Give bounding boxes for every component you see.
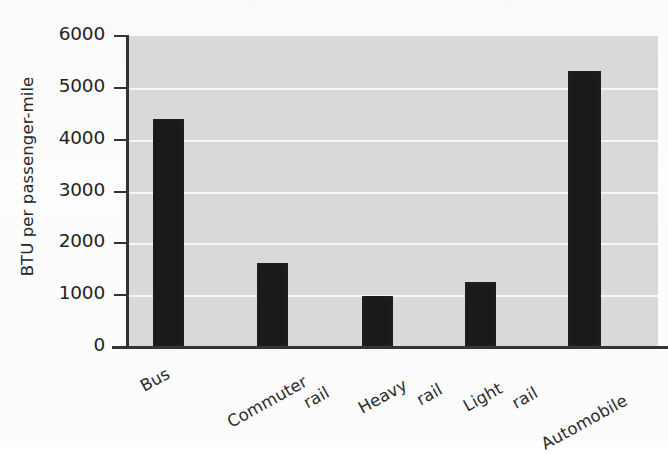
y-tick-label-0: 0 [15, 334, 105, 355]
bar-heavy-rail [362, 296, 393, 347]
y-tick-2000 [114, 242, 127, 244]
y-tick-5000 [114, 87, 127, 89]
y-tick-1000 [114, 294, 127, 296]
y-tick-label-1000: 1000 [15, 282, 105, 303]
x-label-bus-line1: Bus [137, 364, 173, 395]
y-tick-label-3000: 3000 [15, 179, 105, 200]
bar-bus [153, 119, 184, 347]
x-label-heavy-rail-line2: rail [413, 380, 445, 409]
bar-light-rail [465, 282, 496, 347]
x-label-light-rail-line1: Light [460, 379, 506, 416]
y-tick-label-4000: 4000 [15, 127, 105, 148]
x-label-light-rail: Light rail [460, 379, 506, 416]
x-label-commuter-rail: Commuter rail [224, 372, 311, 431]
x-label-commuter-rail-line1: Commuter [224, 372, 311, 431]
y-tick-label-2000: 2000 [15, 230, 105, 251]
y-tick-label-5000: 5000 [15, 75, 105, 96]
plot-area [128, 36, 658, 347]
bar-commuter-rail [257, 263, 288, 347]
y-tick-4000 [114, 139, 127, 141]
x-label-heavy-rail: Heavy rail [355, 375, 410, 417]
x-axis-line [112, 346, 668, 349]
x-label-heavy-rail-line1: Heavy [355, 375, 410, 417]
x-label-light-rail-line2: rail [509, 383, 541, 412]
bar-automobile [568, 71, 601, 347]
y-tick-label-6000: 6000 [15, 23, 105, 44]
x-label-automobile: Automobile [538, 391, 631, 454]
x-label-automobile-line1: Automobile [538, 391, 631, 454]
x-label-bus: Bus [137, 364, 173, 395]
y-tick-6000 [114, 35, 127, 37]
y-tick-0 [114, 346, 127, 348]
y-tick-3000 [114, 191, 127, 193]
